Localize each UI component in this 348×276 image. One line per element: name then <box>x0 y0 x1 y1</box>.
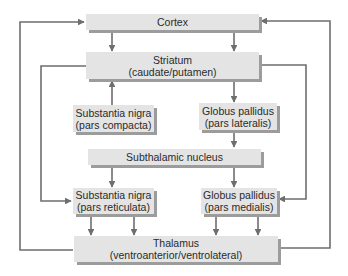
edge-thalamus-cortex-left <box>20 22 84 250</box>
node-gp-medialis-label: Globus pallidus <box>203 189 275 201</box>
node-subthalamic-label: Subthalamic nucleus <box>126 151 223 163</box>
node-sn-reticulata-sublabel: (pars reticulata) <box>77 201 150 213</box>
node-globus-pallidus-medialis: Globus pallidus (pars medialis) <box>201 188 277 214</box>
node-gp-lateralis-sublabel: (pars lateralis) <box>205 117 272 129</box>
node-sn-compacta-label: Substantia nigra <box>76 107 152 119</box>
node-substantia-nigra-reticulata: Substantia nigra (pars reticulata) <box>73 188 154 214</box>
node-thalamus-sublabel: (ventroanterior/ventrolateral) <box>110 249 242 261</box>
node-gp-medialis-sublabel: (pars medialis) <box>205 201 274 213</box>
edge-striatum-gpmedialis <box>262 65 306 199</box>
node-striatum-label: Striatum <box>153 54 192 66</box>
node-cortex-label: Cortex <box>157 16 188 28</box>
node-thalamus-label: Thalamus <box>153 237 199 249</box>
connector-lines <box>0 0 348 276</box>
basal-ganglia-diagram: Cortex Striatum (caudate/putamen) Substa… <box>0 0 348 276</box>
node-striatum: Striatum (caudate/putamen) <box>86 52 259 79</box>
edge-striatum-snreticulata <box>41 66 86 201</box>
node-striatum-sublabel: (caudate/putamen) <box>128 66 216 78</box>
node-sn-compacta-sublabel: (pars compacta) <box>76 119 152 131</box>
node-cortex: Cortex <box>86 14 259 30</box>
node-sn-reticulata-label: Substantia nigra <box>76 189 152 201</box>
node-gp-lateralis-label: Globus pallidus <box>202 105 274 117</box>
node-substantia-nigra-compacta: Substantia nigra (pars compacta) <box>73 105 154 132</box>
node-globus-pallidus-lateralis: Globus pallidus (pars lateralis) <box>199 103 277 130</box>
node-subthalamic-nucleus: Subthalamic nucleus <box>88 149 261 165</box>
node-thalamus: Thalamus (ventroanterior/ventrolateral) <box>74 236 278 262</box>
